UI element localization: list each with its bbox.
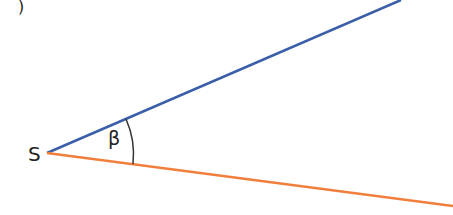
angle-label: β — [108, 127, 120, 149]
angle-arc — [126, 119, 134, 164]
partial-label: ) — [18, 0, 24, 16]
upper-ray — [47, 0, 401, 153]
lower-ray — [47, 153, 453, 206]
angle-diagram: ) S β — [0, 0, 453, 215]
vertex-label: S — [28, 142, 41, 166]
